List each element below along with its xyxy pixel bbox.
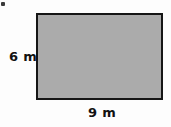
scan-speck-artifact (1, 2, 5, 6)
width-dimension-label: 9 m (88, 106, 116, 119)
rectangle-shape (36, 13, 163, 100)
figure-canvas: 6 m 9 m (0, 0, 171, 127)
height-dimension-label: 6 m (9, 50, 37, 63)
